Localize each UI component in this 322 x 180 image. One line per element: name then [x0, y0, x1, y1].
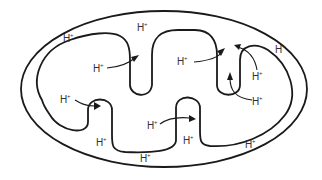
h-plus-label: H + [275, 43, 286, 55]
proton-arrow [194, 48, 225, 62]
svg-text:+: + [282, 43, 286, 49]
proton-arrow [107, 55, 139, 68]
svg-text:+: + [184, 55, 188, 61]
proton-arrow [160, 115, 196, 124]
svg-text:+: + [190, 134, 194, 140]
svg-text:+: + [67, 93, 71, 99]
h-plus-label: H + [93, 62, 104, 74]
h-plus-label: H + [245, 138, 256, 150]
h-plus-label: H + [60, 93, 71, 105]
svg-text:+: + [70, 32, 74, 38]
h-plus-label: H + [96, 136, 107, 148]
h-plus-label: H + [63, 32, 74, 44]
svg-text:+: + [103, 136, 107, 142]
svg-text:+: + [259, 95, 263, 101]
svg-text:+: + [100, 62, 104, 68]
h-plus-label: H + [140, 152, 151, 164]
h-plus-label: H + [252, 95, 263, 107]
svg-text:+: + [144, 21, 148, 27]
h-plus-label: H + [177, 55, 188, 67]
svg-text:+: + [259, 70, 263, 76]
h-plus-label: H + [252, 70, 263, 82]
mitochondrion-diagram: H + H + H + H + H + H + H + H + H + H + … [0, 0, 322, 180]
h-plus-label: H + [137, 21, 148, 33]
svg-text:+: + [147, 152, 151, 158]
svg-text:+: + [252, 138, 256, 144]
inner-membrane [37, 30, 292, 152]
svg-text:+: + [154, 119, 158, 125]
h-plus-label: H + [183, 134, 194, 146]
h-plus-label: H + [147, 119, 158, 131]
